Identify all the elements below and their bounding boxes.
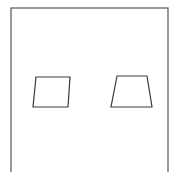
figure-canvas: Two parallelograms inside a rectangular … xyxy=(0,0,178,172)
figure-svg: Two parallelograms inside a rectangular … xyxy=(0,0,178,172)
parallelogram-right xyxy=(111,76,152,107)
parallelogram-left xyxy=(33,77,70,107)
